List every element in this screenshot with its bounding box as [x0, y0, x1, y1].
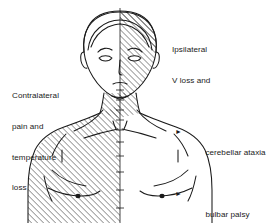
- ipsilateral-line-1: Ipsilateral: [172, 45, 270, 55]
- clavicle-right: [122, 129, 156, 138]
- diagram-canvas: Contralateral pain and temperature loss …: [0, 0, 270, 223]
- symptom-label-2: bulbar palsy: [205, 210, 249, 219]
- list-item: ► cerebellar ataxia: [172, 127, 270, 169]
- sternal-notch-right: [124, 121, 127, 129]
- hair-sweep-left: [91, 24, 120, 47]
- ipsilateral-line-2: V loss and: [172, 76, 270, 86]
- list-item: ► bulbar palsy: [172, 189, 270, 223]
- contralateral-line-2: pain and: [12, 122, 59, 132]
- contralateral-line-3: temperature: [12, 153, 59, 163]
- contralateral-annotation: Contralateral pain and temperature loss: [12, 71, 59, 214]
- eye-right: [128, 56, 141, 61]
- symptom-label-1: cerebellar ataxia: [205, 148, 265, 157]
- triangle-bullet-icon: ►: [175, 127, 182, 137]
- triangle-bullet-icon: ►: [175, 189, 182, 199]
- eyebrow-left: [98, 48, 112, 52]
- eye-left: [99, 56, 112, 61]
- contralateral-line-4: loss: [12, 183, 59, 193]
- ipsilateral-symptom-list: ► cerebellar ataxia ► bulbar palsy ► Hor…: [172, 107, 270, 223]
- contralateral-line-1: Contralateral: [12, 91, 59, 101]
- ipsilateral-annotation: Ipsilateral V loss and ► cerebellar atax…: [172, 25, 270, 223]
